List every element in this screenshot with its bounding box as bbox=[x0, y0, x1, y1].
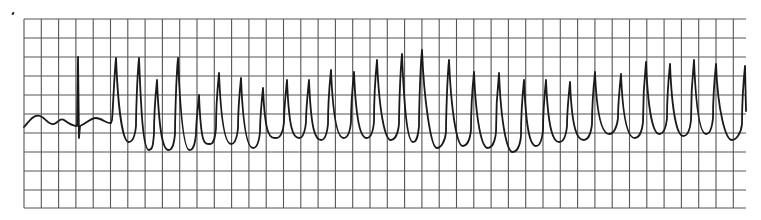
ecg-trace bbox=[24, 50, 746, 152]
ecg-strip bbox=[0, 0, 761, 220]
ecg-grid bbox=[24, 19, 746, 208]
